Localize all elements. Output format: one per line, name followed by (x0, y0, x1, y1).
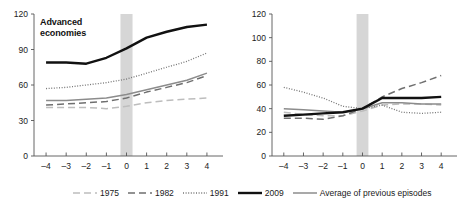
x-axis-tick-label: –1 (102, 161, 112, 171)
legend-swatch-1982 (127, 187, 153, 199)
x-axis-tick-label: 0 (124, 161, 129, 171)
x-axis-tick-label: –3 (299, 161, 309, 171)
legend-swatch-1991 (182, 187, 208, 199)
chart-panel-advanced-economies: 0306090120–4–3–2–101234 Advanced economi… (0, 0, 231, 183)
x-axis-tick-label: –1 (338, 161, 348, 171)
y-axis-tick-label: 0 (23, 151, 28, 161)
panel-title-advanced-economies: Advanced economies (40, 17, 86, 38)
x-axis-tick-label: 2 (164, 161, 169, 171)
line-chart-emerging-market-economies: 020406080100120–4–3–2–101234 (231, 0, 462, 183)
y-axis-tick-label: 0 (261, 151, 266, 161)
y-axis-tick-label: 60 (257, 80, 267, 90)
legend-label: 1982 (153, 188, 182, 198)
legend-item: 2009 (237, 186, 292, 200)
legend-item: Average of previous episodes (292, 186, 435, 200)
y-axis-tick-label: 100 (252, 33, 266, 43)
legend-label: 1991 (208, 188, 237, 198)
y-axis-tick-label: 90 (19, 45, 29, 55)
y-axis-tick-label: 20 (257, 127, 267, 137)
x-axis-tick-label: 4 (439, 161, 444, 171)
y-axis-tick-label: 40 (257, 104, 267, 114)
x-axis-tick-label: 2 (399, 161, 404, 171)
legend-item: 1982 (127, 186, 182, 200)
x-axis-tick-label: 4 (205, 161, 210, 171)
legend-label: Average of previous episodes (318, 188, 435, 198)
x-axis-tick-label: 1 (144, 161, 149, 171)
legend-swatch-1975 (72, 187, 98, 199)
figure-root: 0306090120–4–3–2–101234 Advanced economi… (0, 0, 462, 205)
x-axis-tick-label: –4 (41, 161, 51, 171)
chart-legend: 1975198219912009Average of previous epis… (0, 183, 462, 205)
legend-label: 1975 (98, 188, 127, 198)
x-axis-tick-label: 3 (184, 161, 189, 171)
chart-panel-emerging-market-economies: 020406080100120–4–3–2–101234 Emerging ma… (231, 0, 462, 183)
legend-swatch-2009 (237, 187, 263, 199)
chart-panels: 0306090120–4–3–2–101234 Advanced economi… (0, 0, 462, 183)
legend-label: 2009 (263, 188, 292, 198)
x-axis-tick-label: –2 (82, 161, 92, 171)
x-axis-tick-label: –2 (318, 161, 328, 171)
x-axis-tick-label: 1 (380, 161, 385, 171)
recession-band (120, 14, 132, 156)
legend-item: 1991 (182, 186, 237, 200)
y-axis-tick-label: 120 (14, 9, 28, 19)
line-chart-advanced-economies: 0306090120–4–3–2–101234 (0, 0, 231, 183)
y-axis-tick-label: 60 (19, 80, 29, 90)
x-axis-tick-label: –3 (61, 161, 71, 171)
recession-band (357, 14, 369, 156)
y-axis-tick-label: 120 (252, 9, 266, 19)
y-axis-tick-label: 30 (19, 116, 29, 126)
legend-swatch-average-of-previous-episodes (292, 187, 318, 199)
x-axis-tick-label: –4 (279, 161, 289, 171)
legend-item: 1975 (72, 186, 127, 200)
x-axis-tick-label: 3 (419, 161, 424, 171)
y-axis-tick-label: 80 (257, 56, 267, 66)
x-axis-tick-label: 0 (360, 161, 365, 171)
